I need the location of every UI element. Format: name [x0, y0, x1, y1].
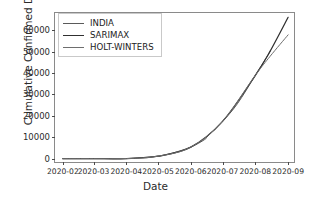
y-tick-label: 40000: [23, 68, 50, 78]
legend-label-holt-winters: HOLT-WINTERS: [90, 41, 154, 53]
x-tick-label: 2020-06: [175, 167, 207, 176]
y-tick-mark: [52, 159, 55, 160]
y-tick-mark: [52, 137, 55, 138]
legend-swatch-sarimax: [63, 35, 84, 36]
x-axis-label: Date: [0, 180, 311, 192]
x-tick-label: 2020-07: [207, 167, 239, 176]
y-tick-mark: [52, 116, 55, 117]
y-tick-label: 10000: [23, 132, 50, 142]
legend-label-india: INDIA: [90, 17, 114, 29]
legend-item: INDIA: [63, 17, 154, 29]
x-tick-label: 2020-02: [47, 167, 79, 176]
y-axis-label: Cumulative Confirmed Deaths: [22, 0, 34, 126]
x-tick-mark: [288, 162, 289, 165]
chart-legend: INDIA SARIMAX HOLT-WINTERS: [58, 13, 162, 57]
legend-swatch-india: [63, 23, 84, 24]
x-tick-label: 2020-08: [239, 167, 271, 176]
x-tick-mark: [158, 162, 159, 165]
x-tick-label: 2020-04: [110, 167, 142, 176]
y-tick-mark: [52, 94, 55, 95]
x-tick-mark: [126, 162, 127, 165]
y-tick-mark: [52, 30, 55, 31]
x-tick-mark: [63, 162, 64, 165]
plot-area: INDIA SARIMAX HOLT-WINTERS 0100002000030…: [54, 12, 295, 163]
legend-item: HOLT-WINTERS: [63, 41, 154, 53]
x-tick-mark: [94, 162, 95, 165]
legend-item: SARIMAX: [63, 29, 154, 41]
y-tick-label: 60000: [23, 25, 50, 35]
y-tick-label: 20000: [23, 111, 50, 121]
y-tick-mark: [52, 73, 55, 74]
x-tick-label: 2020-03: [78, 167, 110, 176]
y-tick-mark: [52, 52, 55, 53]
x-tick-label: 2020-05: [142, 167, 174, 176]
legend-swatch-holt-winters: [63, 47, 84, 48]
chart-figure: Cumulative Confirmed Deaths INDIA SARIMA…: [0, 0, 311, 200]
x-tick-label: 2020-09: [272, 167, 304, 176]
y-tick-label: 50000: [23, 47, 50, 57]
x-tick-mark: [191, 162, 192, 165]
x-tick-mark: [223, 162, 224, 165]
series-line-india: [63, 52, 270, 159]
x-tick-mark: [255, 162, 256, 165]
y-tick-label: 30000: [23, 89, 50, 99]
y-tick-label: 0: [45, 154, 50, 164]
legend-label-sarimax: SARIMAX: [90, 29, 129, 41]
